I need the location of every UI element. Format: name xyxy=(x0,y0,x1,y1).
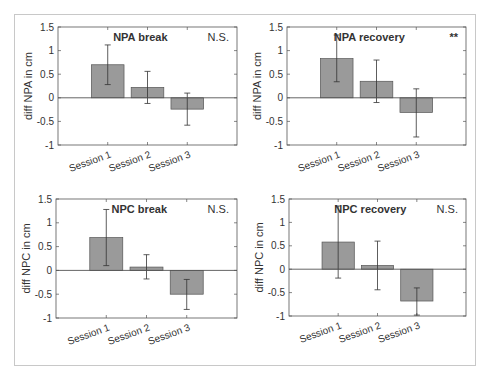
y-tick-label: -1 xyxy=(276,311,285,322)
y-tick-label: 1 xyxy=(277,45,283,56)
x-tick-label: Session 1 xyxy=(66,321,111,347)
x-tick-label: Session 3 xyxy=(147,148,192,174)
y-tick-label: 0 xyxy=(46,265,52,276)
y-tick-label: 1.5 xyxy=(269,22,283,33)
y-tick-label: -0.5 xyxy=(266,116,284,127)
y-tick-label: 0 xyxy=(277,92,283,103)
y-tick-label: -0.5 xyxy=(35,289,53,300)
y-tick-label: 1.5 xyxy=(40,22,54,33)
significance-label: N.S. xyxy=(208,203,229,215)
x-tick-label: Session 1 xyxy=(67,148,112,174)
chart-panel-4: -1-0.500.511.5diff NPC in cmSession 1Ses… xyxy=(253,194,466,345)
chart-panel-3: -1-0.500.511.5diff NPC in cmSession 1Ses… xyxy=(20,194,237,347)
y-tick-label: 1 xyxy=(46,217,52,228)
y-tick-label: 1 xyxy=(279,217,285,228)
y-tick-label: -0.5 xyxy=(268,287,286,298)
x-tick-label: Session 3 xyxy=(146,321,191,347)
y-tick-label: 1 xyxy=(48,45,54,56)
x-tick-label: Session 3 xyxy=(376,148,421,174)
x-tick-label: Session 1 xyxy=(296,148,341,174)
panel-title: NPC break xyxy=(111,203,168,215)
y-tick-label: 0 xyxy=(48,92,54,103)
x-tick-label: Session 2 xyxy=(336,148,381,174)
y-tick-label: -1 xyxy=(43,313,52,324)
y-tick-label: 1.5 xyxy=(38,194,52,205)
significance-label: N.S. xyxy=(208,31,229,43)
y-tick-label: -1 xyxy=(274,140,283,151)
y-axis-label: diff NPA in cm xyxy=(251,52,263,120)
y-tick-label: 0.5 xyxy=(38,241,52,252)
y-tick-label: 1.5 xyxy=(271,194,285,205)
y-tick-label: -1 xyxy=(45,140,54,151)
panel-title: NPA recovery xyxy=(334,31,406,43)
x-tick-label: Session 2 xyxy=(107,148,152,174)
significance-label: N.S. xyxy=(437,203,458,215)
figure-canvas: -1-0.500.511.5diff NPA in cmSession 1Ses… xyxy=(0,0,489,377)
y-tick-label: -0.5 xyxy=(37,116,55,127)
x-tick-label: Session 3 xyxy=(376,319,421,345)
y-axis-label: diff NPC in cm xyxy=(253,222,265,292)
x-tick-label: Session 1 xyxy=(298,319,343,345)
significance-label: ** xyxy=(449,31,458,43)
y-axis-label: diff NPC in cm xyxy=(20,223,32,293)
chart-panel-2: -1-0.500.511.5diff NPA in cmSession 1Ses… xyxy=(251,22,466,174)
panel-title: NPC recovery xyxy=(334,203,407,215)
y-tick-label: 0 xyxy=(279,264,285,275)
y-tick-label: 0.5 xyxy=(269,69,283,80)
y-tick-label: 0.5 xyxy=(40,69,54,80)
y-axis-label: diff NPA in cm xyxy=(22,52,34,120)
x-tick-label: Session 2 xyxy=(106,321,151,347)
y-tick-label: 0.5 xyxy=(271,240,285,251)
panel-title: NPA break xyxy=(113,31,168,43)
chart-panel-1: -1-0.500.511.5diff NPA in cmSession 1Ses… xyxy=(22,22,237,174)
x-tick-label: Session 2 xyxy=(337,319,382,345)
